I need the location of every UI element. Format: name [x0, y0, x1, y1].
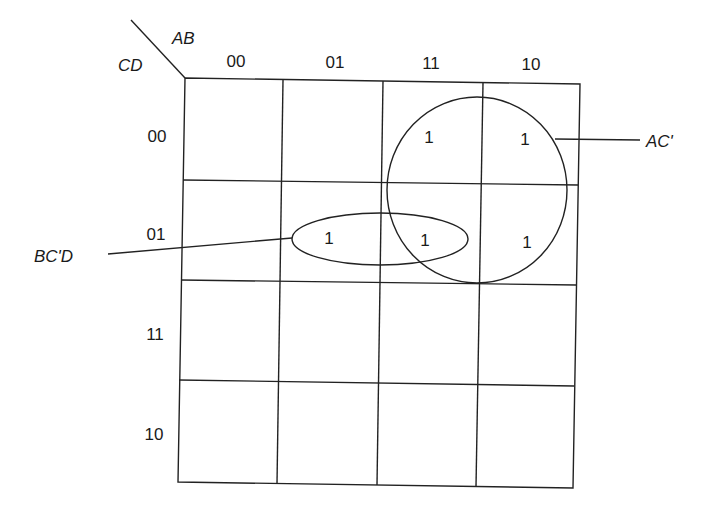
group-bc-prime-d-label: BC'D — [34, 247, 73, 266]
col-header-11: 11 — [422, 54, 440, 73]
col-separator-1 — [277, 80, 283, 484]
col-separator-3 — [476, 83, 483, 487]
col-header-00: 00 — [227, 52, 246, 71]
row-separator-2 — [181, 280, 576, 285]
row-header-01: 01 — [147, 225, 166, 244]
group-bc-prime-d-leader-line — [108, 238, 292, 254]
group-ac-prime-circle — [387, 97, 567, 283]
row-header-11: 11 — [146, 325, 164, 344]
group-ac-prime-leader-line — [555, 139, 640, 140]
cell-r1-c1: 1 — [324, 229, 333, 248]
cell-r0-c3: 1 — [520, 130, 529, 149]
row-separator-1 — [183, 180, 578, 185]
row-variable-label: CD — [118, 56, 143, 75]
row-header-10: 10 — [145, 425, 164, 444]
group-ac-prime-label: AC' — [645, 132, 674, 151]
row-separator-3 — [179, 380, 574, 386]
cell-r1-c3: 1 — [522, 233, 531, 252]
karnaugh-map-diagram: AB CD 00 01 11 10 00 01 11 10 1 1 1 1 1 … — [0, 0, 718, 516]
col-header-10: 10 — [522, 55, 541, 74]
cell-r1-c2: 1 — [420, 231, 429, 250]
row-header-00: 00 — [148, 127, 167, 146]
col-header-01: 01 — [326, 53, 345, 72]
col-variable-label: AB — [171, 29, 195, 48]
cell-r0-c2: 1 — [424, 128, 433, 147]
